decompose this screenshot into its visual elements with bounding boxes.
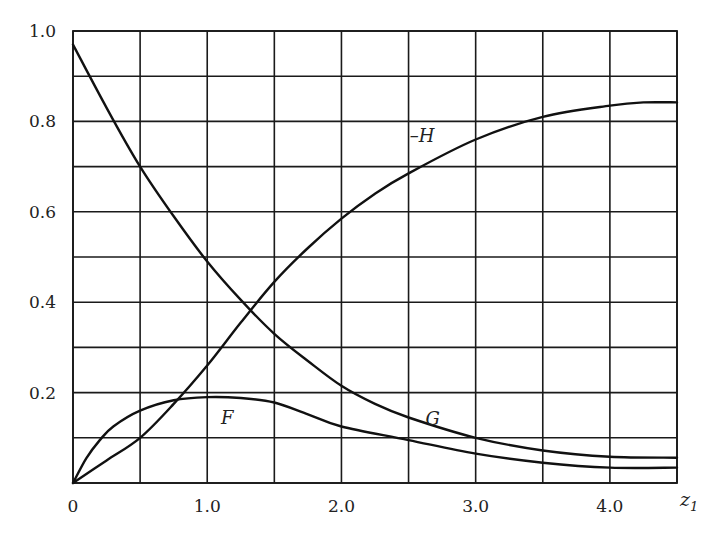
curve-label-f: F (220, 407, 235, 428)
curve-labels: FG–H (220, 125, 440, 429)
curve-label-h: –H (410, 125, 435, 146)
curve-h (73, 102, 677, 483)
x-tick-label: 3.0 (462, 496, 489, 516)
curve-label-g: G (426, 408, 440, 429)
chart: 01.02.03.04.00.20.40.60.81.0 FG–H z1 (0, 0, 712, 543)
curve-f (73, 397, 677, 483)
axis-ticks: 01.02.03.04.00.20.40.60.81.0 (29, 21, 623, 516)
x-tick-label: 0 (68, 496, 79, 516)
y-tick-label: 0.4 (29, 292, 56, 312)
x-tick-label: 1.0 (194, 496, 221, 516)
x-tick-label: 4.0 (596, 496, 623, 516)
curve-g (73, 45, 677, 458)
x-axis-label: z1 (679, 488, 698, 514)
data-curves (73, 45, 677, 483)
x-tick-label: 2.0 (328, 496, 355, 516)
y-tick-label: 0.6 (29, 202, 56, 222)
y-tick-label: 0.2 (29, 383, 56, 403)
y-tick-label: 0.8 (29, 111, 56, 131)
y-tick-label: 1.0 (29, 21, 56, 41)
